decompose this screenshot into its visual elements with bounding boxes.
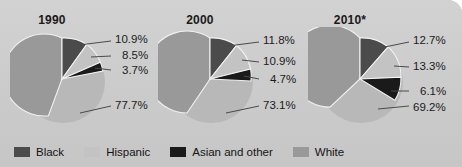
pct-label-black: 10.9%	[115, 33, 148, 45]
pct-label-asian: 4.7%	[270, 73, 296, 85]
pct-label-white: 77.7%	[115, 99, 148, 111]
legend-item-white: White	[293, 146, 344, 158]
pct-label-asian: 6.1%	[420, 85, 446, 97]
pct-label-hispanic: 8.5%	[122, 49, 148, 61]
legend: Black Hispanic Asian and other White	[0, 137, 462, 167]
legend-swatch-hispanic-icon	[84, 147, 100, 157]
pie-panel-2010: 2010*	[298, 0, 452, 137]
pie-title-2010: 2010*	[298, 13, 402, 27]
legend-item-asian-and-other: Asian and other	[170, 146, 273, 158]
pct-label-asian: 3.7%	[122, 64, 148, 76]
pct-label-white: 69.2%	[413, 101, 446, 113]
pie-panel-1990: 1990	[0, 0, 154, 137]
pct-label-hispanic: 13.3%	[413, 60, 446, 72]
pct-label-black: 11.8%	[263, 34, 295, 46]
pie-chart-figure: 1990	[0, 0, 462, 167]
legend-swatch-black-icon	[14, 147, 30, 157]
pie-labels-2000: 11.8% 10.9% 4.7% 73.1%	[148, 27, 302, 131]
legend-swatch-asian-icon	[170, 147, 186, 157]
legend-swatch-white-icon	[293, 147, 309, 157]
legend-label-black: Black	[36, 146, 64, 158]
legend-label-asian-and-other: Asian and other	[192, 146, 273, 158]
pie-panel-2000: 2000	[148, 0, 302, 137]
pie-title-1990: 1990	[0, 13, 104, 27]
legend-label-hispanic: Hispanic	[106, 146, 150, 158]
legend-item-hispanic: Hispanic	[84, 146, 150, 158]
pie-labels-2010: 12.7% 13.3% 6.1% 69.2%	[298, 27, 452, 131]
legend-label-white: White	[315, 146, 344, 158]
pct-label-black: 12.7%	[413, 34, 446, 46]
pct-label-hispanic: 10.9%	[263, 55, 296, 67]
pct-label-white: 73.1%	[263, 99, 296, 111]
pie-title-2000: 2000	[148, 13, 252, 27]
legend-item-black: Black	[14, 146, 64, 158]
pie-labels-1990: 10.9% 8.5% 3.7% 77.7%	[0, 27, 154, 131]
